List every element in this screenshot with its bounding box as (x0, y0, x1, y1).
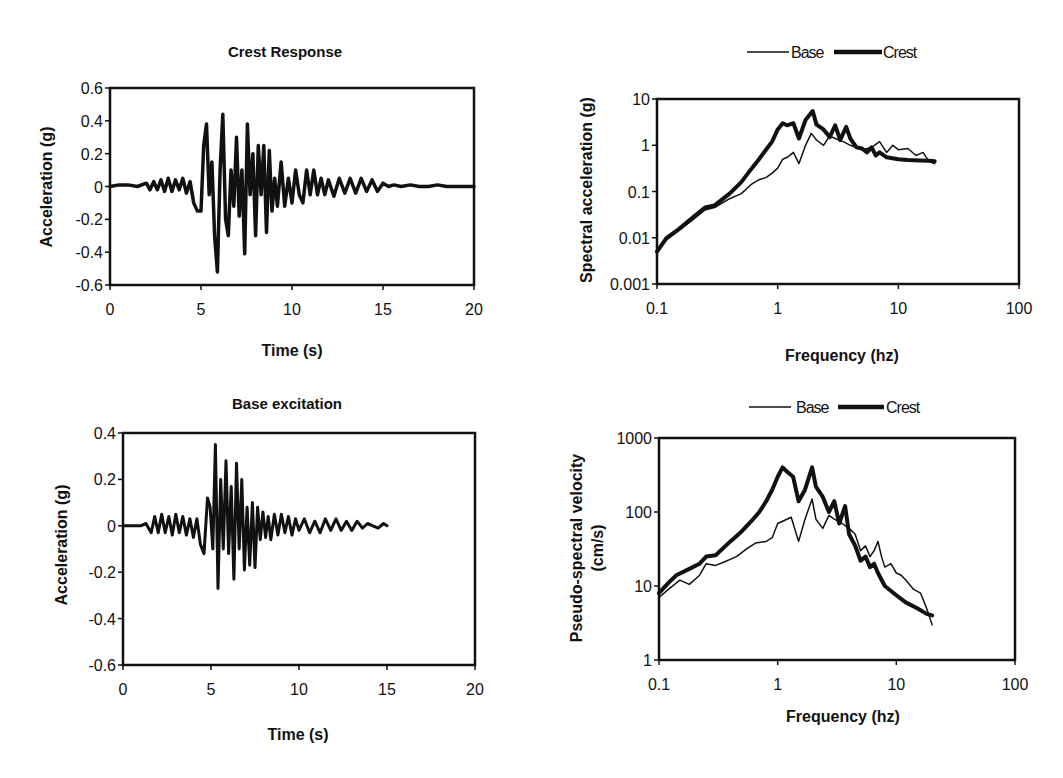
base-x-axis-label: Time (s) (267, 726, 328, 743)
legend-crest-label: Crest (886, 399, 921, 416)
spectral-x-axis-label: Frequency (hz) (785, 347, 899, 364)
x-tick-label: 10 (283, 301, 301, 318)
base-excitation-title: Base excitation (232, 395, 342, 412)
y-tick-label: 0.4 (94, 425, 116, 442)
x-tick-label: 100 (1002, 676, 1029, 693)
crest-x-axis-label: Time (s) (261, 342, 322, 359)
velocity-y-ticks: 1000100101 (616, 430, 659, 669)
spectral-acceleration-legend: Base Crest (747, 44, 918, 61)
x-tick-label: 0.1 (648, 676, 670, 693)
x-tick-label: 0.1 (646, 300, 668, 317)
legend-base-label: Base (791, 44, 825, 61)
x-tick-label: 1 (773, 300, 782, 317)
pseudo-velocity-legend: Base Crest (749, 399, 921, 416)
y-tick-label: 0.4 (81, 113, 103, 130)
spectral-plot-frame (657, 99, 1019, 284)
crest-response-panel: Crest Response 0.60.40.20-0.2-0.4-0.6 05… (38, 43, 483, 359)
pseudo-velocity-panel: Base Crest 1000100101 0.1110100 Frequenc… (568, 399, 1028, 725)
x-tick-label: 100 (1006, 300, 1033, 317)
x-tick-label: 10 (887, 676, 905, 693)
x-tick-label: 10 (889, 300, 907, 317)
x-tick-label: 5 (207, 681, 216, 698)
y-tick-label: -0.6 (88, 657, 116, 674)
series-crest-line (659, 467, 932, 615)
y-tick-label: 0.01 (619, 230, 650, 247)
base-excitation-panel: Base excitation 0.40.20-0.2-0.4-0.6 0510… (53, 395, 484, 743)
x-tick-label: 10 (290, 681, 308, 698)
spectral-y-axis-label: Spectral acceleration (g) (578, 97, 595, 283)
y-tick-label: 0.001 (610, 276, 650, 293)
base-series (123, 445, 387, 589)
figure-canvas: Crest Response 0.60.40.20-0.2-0.4-0.6 05… (0, 0, 1063, 778)
spectral-y-ticks: 1010.10.010.001 (610, 91, 657, 293)
x-tick-label: 20 (465, 301, 483, 318)
series-base-acceleration-line (123, 445, 387, 589)
y-tick-label: 0.6 (81, 80, 103, 97)
y-tick-label: 0.2 (94, 471, 116, 488)
velocity-x-ticks: 0.1110100 (648, 660, 1029, 693)
velocity-y-axis-label-line2: (cm/s) (589, 524, 606, 571)
spectral-x-ticks: 0.1110100 (646, 284, 1033, 317)
y-tick-label: 0 (94, 179, 103, 196)
crest-y-axis-label: Acceleration (g) (38, 127, 55, 248)
series-crest-acceleration-line (110, 114, 474, 272)
y-tick-label: 0.2 (81, 146, 103, 163)
base-y-axis-label: Acceleration (g) (53, 485, 70, 606)
crest-series (110, 114, 474, 272)
y-tick-label: 10 (634, 578, 652, 595)
base-plot-frame (123, 433, 475, 665)
crest-x-ticks: 05101520 (106, 285, 483, 318)
y-tick-label: 100 (625, 504, 652, 521)
y-tick-label: -0.2 (75, 211, 103, 228)
y-tick-label: -0.4 (75, 244, 103, 261)
y-tick-label: 1000 (616, 430, 652, 447)
y-tick-label: 10 (632, 91, 650, 108)
x-tick-label: 15 (374, 301, 392, 318)
y-tick-label: 0 (107, 518, 116, 535)
series-base-line (657, 133, 935, 251)
crest-y-ticks: 0.60.40.20-0.2-0.4-0.6 (75, 80, 110, 294)
legend-base-label: Base (796, 399, 830, 416)
crest-response-title: Crest Response (228, 43, 342, 60)
y-tick-label: 1 (643, 652, 652, 669)
velocity-y-axis-label-line1: Pseudo-spectral velocity (568, 454, 585, 643)
spectral-series (657, 111, 935, 252)
velocity-series (659, 467, 932, 624)
y-tick-label: 0.1 (628, 184, 650, 201)
velocity-x-axis-label: Frequency (hz) (786, 708, 900, 725)
x-tick-label: 15 (378, 681, 396, 698)
y-tick-label: 1 (641, 137, 650, 154)
legend-crest-label: Crest (883, 44, 918, 61)
x-tick-label: 0 (119, 681, 128, 698)
y-tick-label: -0.4 (88, 611, 116, 628)
y-tick-label: -0.2 (88, 564, 116, 581)
y-tick-label: -0.6 (75, 277, 103, 294)
x-tick-label: 5 (197, 301, 206, 318)
x-tick-label: 1 (773, 676, 782, 693)
spectral-acceleration-panel: Base Crest 1010.10.010.001 0.1110100 Fre… (578, 44, 1032, 364)
x-tick-label: 0 (106, 301, 115, 318)
base-x-ticks: 05101520 (119, 665, 484, 698)
velocity-plot-frame (659, 438, 1015, 660)
series-crest-line (657, 111, 935, 252)
base-y-ticks: 0.40.20-0.2-0.4-0.6 (88, 425, 123, 674)
x-tick-label: 20 (466, 681, 484, 698)
